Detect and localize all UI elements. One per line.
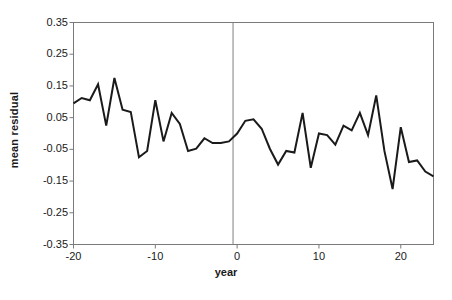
figure-caption-cropped	[0, 288, 452, 300]
y-tick-label: -0.15	[26, 175, 68, 186]
x-axis-tick-marks	[74, 245, 401, 249]
x-tick-label: 20	[381, 250, 421, 262]
y-tick-label: -0.25	[26, 207, 68, 218]
y-tick-label: 0.15	[26, 80, 68, 91]
y-tick-label: 0.25	[26, 48, 68, 59]
y-axis-tick-marks	[70, 23, 74, 245]
chart-figure: 0.350.250.150.05-0.05-0.15-0.25-0.35 -20…	[0, 0, 452, 300]
x-tick-label: -20	[54, 250, 94, 262]
x-tick-label: -10	[135, 250, 175, 262]
y-tick-label: 0.05	[26, 112, 68, 123]
x-tick-label: 10	[299, 250, 339, 262]
x-tick-label: 0	[217, 250, 257, 262]
plot-area-border	[74, 23, 434, 245]
y-tick-label: 0.35	[26, 17, 68, 28]
y-tick-label: -0.35	[26, 239, 68, 250]
y-axis-title: mean residual	[8, 60, 26, 200]
y-tick-label: -0.05	[26, 143, 68, 154]
x-axis-title: year	[0, 266, 452, 278]
